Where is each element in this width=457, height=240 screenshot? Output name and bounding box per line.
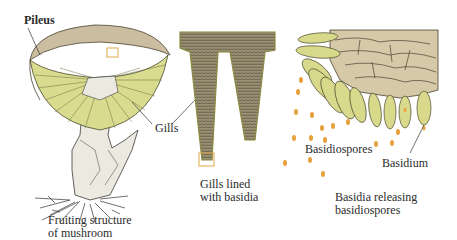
- gill-cross-section: [180, 32, 275, 166]
- detail-box-cap: [107, 48, 118, 57]
- mushroom-illustration: [30, 25, 170, 222]
- caption-mushroom-line2: of mushroom: [48, 227, 132, 240]
- caption-basidia: Basidia releasing basidiospores: [335, 191, 417, 217]
- cap-pileus: [30, 25, 170, 60]
- basidium-leader: [410, 125, 424, 153]
- caption-gills-line2: with basidia: [200, 191, 258, 204]
- label-pileus: Pileus: [24, 14, 55, 27]
- label-basidiospores: Basidiospores: [305, 143, 372, 156]
- label-gills: Gills: [155, 122, 178, 135]
- caption-mushroom: Fruiting structure of mushroom: [48, 214, 132, 240]
- caption-gills: Gills lined with basidia: [200, 178, 258, 204]
- label-basidium: Basidium: [382, 157, 428, 170]
- caption-basidia-line2: basidiospores: [335, 204, 417, 217]
